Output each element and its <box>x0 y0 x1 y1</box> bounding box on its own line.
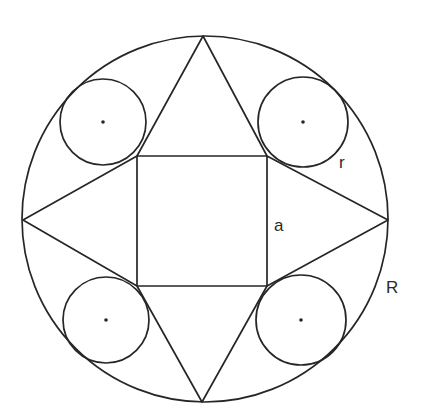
center-dot-bottom-right <box>299 318 303 322</box>
central-square <box>137 156 267 286</box>
label-R: R <box>386 278 398 297</box>
small-circles-group <box>60 77 348 365</box>
geometry-diagram: r a R <box>0 0 423 415</box>
label-r: r <box>339 153 345 172</box>
star-triangles <box>23 36 388 402</box>
center-dot-top-right <box>301 120 305 124</box>
label-a: a <box>274 216 284 235</box>
large-circle <box>22 36 388 402</box>
center-dot-top-left <box>101 120 105 124</box>
center-dot-bottom-left <box>104 318 108 322</box>
